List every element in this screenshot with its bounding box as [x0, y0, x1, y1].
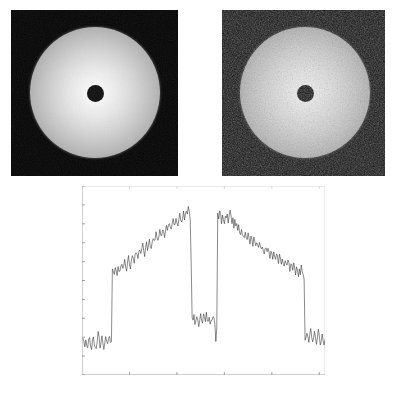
plot-box-top-right	[82, 186, 325, 375]
right-phantom-image	[222, 10, 385, 176]
figure-container: 00.10.20.30.40.50.60.70.80.9150100150200…	[0, 0, 395, 400]
phantom-center-hole	[297, 85, 314, 102]
profile-plot-svg: 00.10.20.30.40.50.60.70.80.9150100150200…	[82, 186, 325, 375]
phantom-center-hole	[87, 85, 104, 102]
left-phantom-image	[11, 10, 178, 176]
profile-line	[83, 206, 325, 349]
plot-axes	[82, 186, 325, 375]
intensity-profile-plot: 00.10.20.30.40.50.60.70.80.9150100150200…	[82, 186, 325, 375]
